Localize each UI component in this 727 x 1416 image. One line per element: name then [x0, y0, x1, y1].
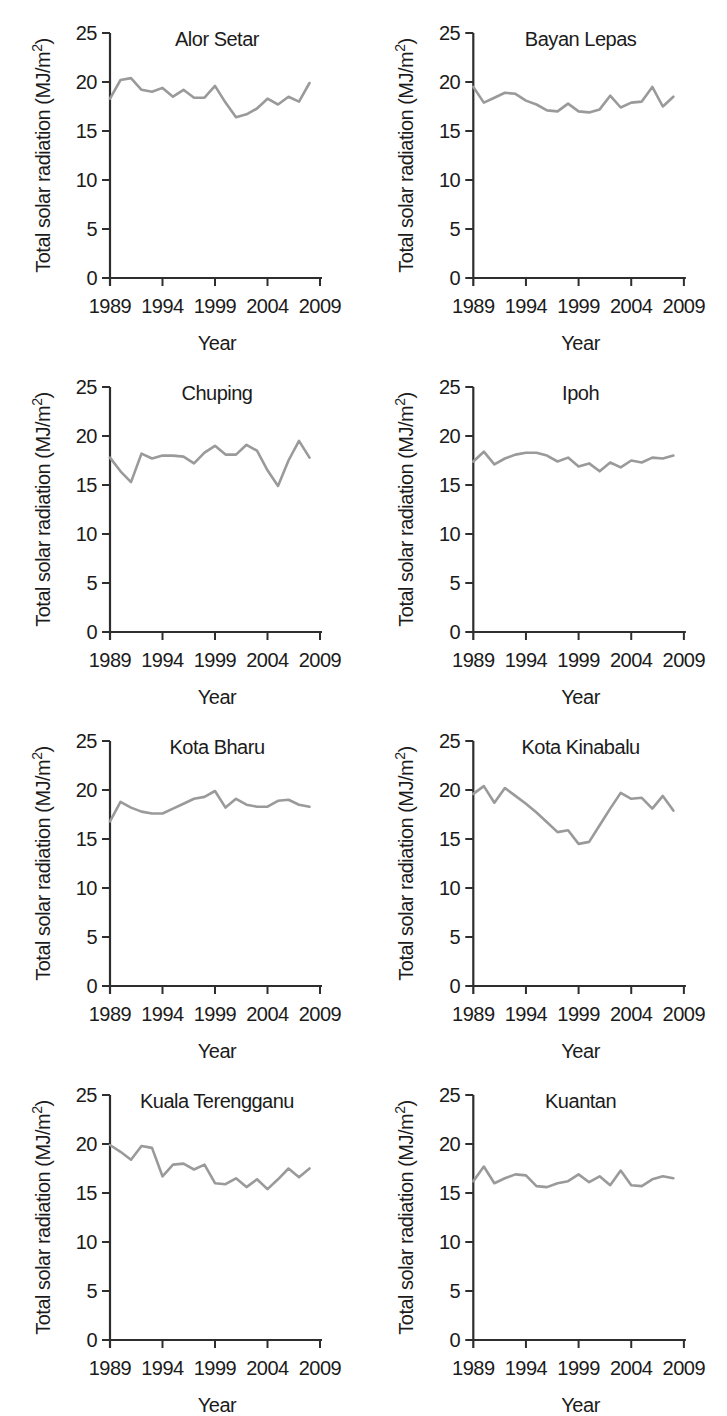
y-tick-label: 0 [86, 267, 97, 289]
x-tick-label: 1999 [194, 1003, 237, 1025]
y-axis-label-close: ) [395, 392, 417, 398]
y-axis-label-text: Total solar radiation (MJ/m [32, 760, 54, 981]
y-tick-label: 10 [76, 877, 98, 899]
x-tick-label: 1994 [505, 295, 548, 317]
x-tick-label: 2009 [299, 295, 342, 317]
y-axis-label: Total solar radiation (MJ/m2) [29, 392, 54, 627]
x-tick-label: 1999 [557, 1357, 600, 1379]
x-axis-label: Year [561, 332, 600, 354]
chart-svg-ipoh: 051015202519891994199920042009IpohYearTo… [363, 354, 727, 708]
chart-kuala-terengganu: 051015202519891994199920042009Kuala Tere… [0, 1062, 363, 1416]
y-tick-label: 15 [439, 828, 461, 850]
chart-title: Ipoh [562, 382, 599, 404]
x-tick-label: 1994 [141, 649, 184, 671]
chart-ipoh: 051015202519891994199920042009IpohYearTo… [363, 354, 727, 708]
x-tick-label: 2004 [610, 1357, 653, 1379]
x-tick-label: 2004 [246, 295, 289, 317]
chart-title: Kota Bharu [169, 736, 264, 758]
chart-svg-kuantan: 051015202519891994199920042009KuantanYea… [363, 1062, 727, 1416]
y-tick-label: 15 [76, 1182, 98, 1204]
y-axis-label: Total solar radiation (MJ/m2) [392, 1100, 417, 1334]
y-axis-label-text: Total solar radiation (MJ/m [395, 1114, 417, 1335]
y-tick-label: 20 [439, 425, 461, 447]
data-line [110, 1145, 310, 1189]
x-tick-label: 2004 [610, 649, 653, 671]
y-axis-label: Total solar radiation (MJ/m2) [29, 38, 54, 273]
chart-kota-bharu: 051015202519891994199920042009Kota Bharu… [0, 708, 363, 1062]
data-line [110, 791, 310, 821]
y-tick-label: 10 [76, 169, 98, 191]
y-axis-label-text: Total solar radiation (MJ/m [395, 406, 417, 627]
chart-svg-kota-bharu: 051015202519891994199920042009Kota Bharu… [0, 708, 363, 1062]
y-tick-label: 0 [86, 975, 97, 997]
x-axis-label: Year [198, 332, 237, 354]
x-tick-label: 2004 [246, 649, 289, 671]
x-tick-label: 1994 [141, 295, 184, 317]
y-tick-label: 25 [76, 730, 98, 752]
x-axis-label: Year [561, 686, 600, 708]
chart-svg-bayan-lepas: 051015202519891994199920042009Bayan Lepa… [363, 0, 727, 354]
y-axis-label: Total solar radiation (MJ/m2) [29, 1100, 54, 1335]
x-tick-label: 1999 [194, 1357, 237, 1379]
y-tick-label: 0 [450, 267, 461, 289]
x-tick-label: 2009 [299, 1357, 342, 1379]
chart-kota-kinabalu: 051015202519891994199920042009Kota Kinab… [363, 708, 727, 1062]
x-tick-label: 1989 [452, 649, 495, 671]
y-tick-label: 20 [76, 779, 98, 801]
chart-svg-kota-kinabalu: 051015202519891994199920042009Kota Kinab… [363, 708, 727, 1062]
x-tick-label: 2009 [663, 1003, 706, 1025]
y-tick-label: 15 [439, 120, 461, 142]
x-tick-label: 1994 [505, 649, 548, 671]
y-tick-label: 20 [439, 71, 461, 93]
y-tick-label: 25 [76, 22, 98, 44]
y-tick-label: 20 [439, 1133, 461, 1155]
chart-title: Kuala Terengganu [140, 1090, 294, 1112]
y-tick-label: 10 [439, 877, 461, 899]
y-tick-label: 25 [76, 1084, 98, 1106]
chart-title: Alor Setar [175, 28, 260, 50]
y-tick-label: 10 [439, 1231, 461, 1253]
y-axis-label-close: ) [395, 38, 417, 44]
y-tick-label: 10 [76, 523, 98, 545]
y-tick-label: 0 [450, 1329, 461, 1351]
y-axis-label: Total solar radiation (MJ/m2) [392, 38, 417, 272]
x-tick-label: 2009 [663, 649, 706, 671]
x-tick-label: 2004 [246, 1357, 289, 1379]
x-tick-label: 1989 [89, 1357, 132, 1379]
y-axis-label-text: Total solar radiation (MJ/m [32, 406, 54, 627]
y-tick-label: 5 [86, 218, 97, 240]
chart-title: Kuantan [545, 1090, 616, 1112]
y-tick-label: 20 [439, 779, 461, 801]
y-tick-label: 10 [439, 169, 461, 191]
y-axis-label-text: Total solar radiation (MJ/m [395, 52, 417, 273]
x-tick-label: 1999 [557, 1003, 600, 1025]
y-tick-label: 25 [76, 376, 98, 398]
x-tick-label: 1999 [194, 295, 237, 317]
y-tick-label: 20 [76, 1133, 98, 1155]
y-tick-label: 0 [450, 975, 461, 997]
chart-chuping: 051015202519891994199920042009ChupingYea… [0, 354, 363, 708]
y-axis-label-text: Total solar radiation (MJ/m [32, 1114, 54, 1335]
y-tick-label: 15 [439, 1182, 461, 1204]
y-axis-label-text: Total solar radiation (MJ/m [395, 760, 417, 981]
y-tick-label: 0 [86, 1329, 97, 1351]
y-tick-label: 20 [76, 425, 98, 447]
x-axis-label: Year [198, 1394, 237, 1416]
chart-title: Kota Kinabalu [521, 736, 639, 758]
x-tick-label: 1994 [141, 1357, 184, 1379]
y-tick-label: 5 [86, 926, 97, 948]
x-axis-label: Year [561, 1394, 600, 1416]
y-tick-label: 15 [439, 474, 461, 496]
y-tick-label: 25 [439, 376, 461, 398]
x-tick-label: 1999 [557, 295, 600, 317]
y-tick-label: 5 [86, 572, 97, 594]
y-tick-label: 5 [450, 926, 461, 948]
y-axis-label: Total solar radiation (MJ/m2) [29, 746, 54, 981]
x-axis-label: Year [561, 1040, 600, 1062]
y-axis-label-close: ) [32, 392, 54, 398]
x-tick-label: 2004 [610, 295, 653, 317]
solar-radiation-figure-grid: 051015202519891994199920042009Alor Setar… [0, 0, 727, 1416]
x-tick-label: 2004 [246, 1003, 289, 1025]
chart-title: Chuping [181, 382, 252, 404]
x-tick-label: 1989 [452, 1003, 495, 1025]
